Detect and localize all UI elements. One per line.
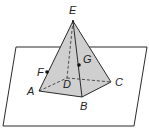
label-c: C xyxy=(115,76,123,88)
label-b: B xyxy=(80,100,87,112)
label-g: G xyxy=(83,53,92,65)
label-d: D xyxy=(63,78,71,90)
apex-e-dot xyxy=(72,20,74,22)
point-f-dot xyxy=(45,70,49,74)
point-g-dot xyxy=(77,63,81,67)
label-a: A xyxy=(26,85,34,97)
pyramid-diagram: E F G A D C B xyxy=(0,0,149,133)
label-e: E xyxy=(69,4,77,16)
